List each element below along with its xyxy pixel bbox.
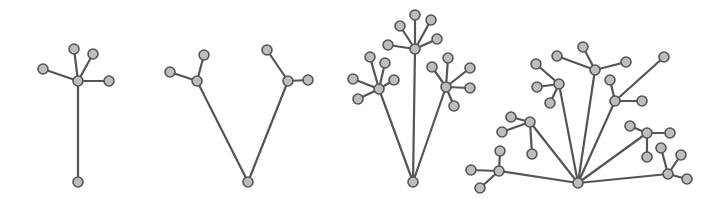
tree-2-leaf-node [262,45,272,55]
tree-3-leaf-node [426,15,436,25]
tree-4-leaf-node [682,174,692,184]
tree-3-leaf-node [432,34,442,44]
tree-3-leaf-node [383,40,393,50]
tree-3-leaf-node [443,53,453,63]
tree-1-leaf-node [38,64,48,74]
tree-4-leaf-node [506,112,516,122]
tree-diagrams [0,0,727,204]
tree-4-leaf-node [642,152,652,162]
tree-4-hub-node [525,117,535,127]
tree-3-leaf-node [380,58,390,68]
tree-2-leaf-node [165,67,175,77]
tree-4-hub-node [554,79,564,89]
tree-4-leaf-node [665,128,675,138]
tree-2-hub-node [283,76,293,86]
tree-4-trunk-edge [559,84,578,183]
tree-3-hub-node [441,82,451,92]
nodes-layer [38,10,692,193]
tree-1-leaf-node [88,49,98,59]
tree-2-root-node [243,177,253,187]
tree-4-leaf-node [578,42,588,52]
tree-4-leaf-node [605,75,615,85]
tree-4-hub-node [494,166,504,176]
tree-3-hub-node [410,44,420,54]
tree-4-leaf-node [495,146,505,156]
tree-4-hub-node [642,128,652,138]
tree-3-root-node [408,177,418,187]
tree-4-leaf-node [659,52,669,62]
tree-2-trunk-edge [248,81,288,182]
tree-3-leaf-node [465,63,475,73]
tree-3-trunk-edge [379,89,413,182]
tree-4-leaf-node [527,149,537,159]
tree-1-leaf-node [69,44,79,54]
tree-2-leaf-node [199,50,209,60]
tree-4-leaf-node [625,121,635,131]
tree-4-hub-node [590,65,600,75]
tree-4-leaf-node [545,98,555,108]
tree-3-leaf-node [348,74,358,84]
tree-3-leaf-node [449,101,459,111]
tree-4-hub-node [663,169,673,179]
tree-1-root-node [73,177,83,187]
tree-2-trunk-edge [197,81,248,182]
tree-4-trunk-edge [578,174,668,183]
tree-4-hub-node [610,96,620,106]
tree-4-root-node [573,178,583,188]
tree-4-leaf-node [466,165,476,175]
tree-4-leaf-node [676,150,686,160]
tree-4-leaf-node [532,82,542,92]
tree-4-leaf-node [531,59,541,69]
tree-4-leaf-node [656,143,666,153]
tree-3-leaf-node [410,10,420,20]
tree-3-leaf-node [395,21,405,31]
tree-3-leaf-node [465,83,475,93]
tree-3-hub-node [374,84,384,94]
tree-3-trunk-edge [413,49,415,182]
tree-3-leaf-node [353,94,363,104]
tree-4-leaf-node [475,183,485,193]
tree-4-leaf-node [552,51,562,61]
tree-3-leaf-node [389,75,399,85]
tree-4-trunk-edge [499,171,578,183]
tree-4-leaf-node [637,96,647,106]
tree-3-trunk-edge [413,87,446,182]
tree-4-leaf-node [497,127,507,137]
tree-3-leaf-node [365,52,375,62]
tree-3-leaf-node [427,62,437,72]
tree-2-hub-node [192,76,202,86]
edges-layer [43,15,687,188]
tree-1-leaf-node [104,76,114,86]
tree-1-hub-node [73,76,83,86]
tree-4-leaf-node [621,57,631,67]
tree-2-leaf-node [303,75,313,85]
